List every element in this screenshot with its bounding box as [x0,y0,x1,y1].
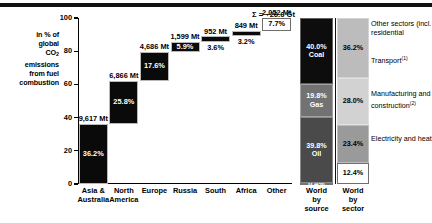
legend-transport-label: Transport [371,56,402,65]
waterfall-bar-south[interactable]: 952 Mt3.6% [201,36,230,42]
waterfall-percent-label: 36.2% [80,150,107,157]
x-axis-label-world-by-sector: Worldbysector [323,186,383,214]
stack-segment-label: 23.4% [343,140,363,149]
y-tick-mark [74,150,78,151]
stack-segment-label: 12.4% [343,169,363,178]
x-axis-label-group: Asia &AustraliaNorthAmericaEuropeRussiaS… [78,186,369,223]
stacked-bar-world-by-source: 0.4%39.8%Oil19.8%Gas40.0%Coal [300,18,333,184]
waterfall-percent-label: 5.9% [172,43,199,50]
waterfall-value-label: 9,617 Mt [79,115,108,122]
waterfall-value-label: 4,686 Mt [140,43,169,50]
waterfall-value-label: 849 Mt [235,22,258,29]
x-axis-line [78,183,292,184]
stack-segment-label: 28.0% [343,97,363,106]
y-axis-caption-line3: CO [46,48,57,57]
y-tick-label-100: 100 [60,14,72,21]
y-tick-mark [74,117,78,118]
legend-panel: Other sectors (incl. residential Transpo… [371,18,432,184]
waterfall-bar-russia[interactable]: 1,599 Mt5.9% [171,42,200,52]
waterfall-value-label: 2,052 Mt [262,9,291,16]
waterfall-bar-other[interactable]: 2,052 Mt7.7% [262,18,291,31]
waterfall-bar-africa[interactable]: 849 Mt3.2% [232,31,261,36]
waterfall-percent-label: 3.6% [202,44,229,51]
waterfall-value-label: 6,866 Mt [109,72,138,79]
waterfall-percent-label: 7.7% [263,21,290,28]
x-axis-label-line: World [323,186,383,195]
stack-segment-name: Gas [306,101,326,110]
stack-segment-name: Coal [306,51,326,60]
y-axis-caption-line5: from fuel [29,69,59,78]
y-axis-caption-line2: global [38,39,59,48]
chart-root: in % of global CO2 emissions from fuel c… [0,0,432,223]
x-axis-label-line: America [94,195,154,204]
waterfall-value-label: 952 Mt [204,28,227,35]
waterfall-value-label: 1,599 Mt [170,33,199,40]
waterfall-bar-asia-australia[interactable]: 9,617 Mt36.2% [79,124,108,184]
legend-manufacturing-label: Manufacturing and construction [371,89,431,110]
y-tick-label-40: 40 [64,114,72,121]
stack-segment[interactable]: 23.4% [337,125,369,164]
legend-item-manufacturing: Manufacturing and construction(2) [371,90,432,111]
y-tick-label-60: 60 [64,81,72,88]
stack-segment[interactable]: 39.8%Oil [300,117,333,183]
legend-item-transport: Transport(1) [371,54,432,66]
legend-transport-footnote: (1) [402,55,408,61]
plot-area: 020406080100 9,617 Mt36.2%6,866 Mt25.8%4… [78,18,292,184]
top-divider-rule [0,3,432,7]
stack-segment[interactable]: 28.0% [337,78,369,124]
y-tick-mark [74,183,78,184]
y-tick-label-80: 80 [64,47,72,54]
y-axis-caption-line6: combustion [19,78,59,87]
x-axis-label-line: sector [323,204,383,213]
y-axis-caption-subscript: 2 [56,51,59,57]
stack-segment-name: Oil [306,150,326,159]
y-tick-mark [74,84,78,85]
waterfall-bar-north-america[interactable]: 6,866 Mt25.8% [109,81,138,124]
stack-segment-label: 19.8%Gas [306,92,326,109]
y-axis-caption-line1: in % of [36,30,59,39]
stack-segment-label: 36.2% [343,44,363,53]
waterfall-percent-label: 17.6% [141,63,168,70]
y-axis-caption-line4: emissions [25,60,59,69]
legend-item-other-sectors: Other sectors (incl. residential [371,20,432,38]
x-axis-label-line: by [323,195,383,204]
stack-segment[interactable]: 36.2% [337,18,369,78]
legend-item-electricity: Electricity and heat [371,135,432,144]
legend-manufacturing-footnote: (2) [410,100,416,106]
y-tick-mark [74,17,78,18]
waterfall-bar-europe[interactable]: 4,686 Mt17.6% [140,52,169,81]
stack-segment[interactable]: 40.0%Coal [300,18,333,84]
y-tick-label-20: 20 [64,147,72,154]
waterfall-percent-label: 25.8% [110,99,137,106]
stack-segment-label: 39.8%Oil [306,142,326,159]
y-tick-mark [74,51,78,52]
waterfall-percent-label: 3.2% [233,38,260,45]
stack-segment[interactable]: 12.4% [337,163,369,184]
stacked-bar-world-by-sector: 12.4%23.4%28.0%36.2% [337,18,369,184]
stack-segment[interactable]: 19.8%Gas [300,84,333,117]
y-axis-caption: in % of global CO2 emissions from fuel c… [2,30,59,87]
stack-segment-label: 40.0%Coal [306,43,326,60]
